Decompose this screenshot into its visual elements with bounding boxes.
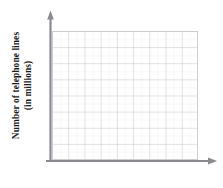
y-axis-label-container: Number of telephone lines (in millions) [0,0,46,170]
arrow-up-icon [47,11,54,20]
plot-area [52,31,198,160]
arrow-right-icon [208,158,217,165]
grid-lines [52,31,198,160]
chart-canvas: Number of telephone lines (in millions) [0,0,223,188]
y-axis-label-line-2: (in millions) [23,31,35,138]
y-axis-label: Number of telephone lines (in millions) [12,31,35,138]
y-axis-label-line-1: Number of telephone lines [12,31,22,138]
